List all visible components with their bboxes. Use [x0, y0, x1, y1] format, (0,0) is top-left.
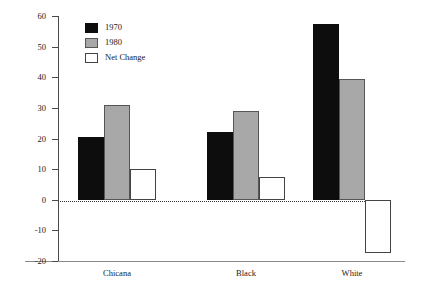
y-axis-tick [52, 108, 58, 109]
x-axis-category-label: White [301, 268, 403, 278]
legend-label-1980: 1980 [105, 38, 122, 47]
legend-item: Net Change [85, 50, 145, 65]
y-axis-tick [52, 230, 58, 231]
y-axis-tick-label: -10 [0, 226, 46, 235]
x-axis-category-label: Chicana [66, 268, 168, 278]
bar-chart: Percentage 6050403020100-10-20 ChicanaBl… [0, 0, 431, 293]
bar-1980 [233, 111, 259, 200]
y-axis-tick [52, 261, 58, 262]
y-axis-tick [52, 16, 58, 17]
y-axis-tick-label: 0 [0, 196, 46, 205]
legend-swatch-1980-icon [85, 38, 98, 48]
y-axis-line [58, 16, 59, 261]
zero-reference-line [58, 201, 373, 202]
bar-net-change [130, 169, 156, 200]
legend-label-net-change: Net Change [105, 53, 145, 62]
y-axis-tick-label: 60 [0, 12, 46, 21]
bar-1980 [339, 79, 365, 200]
legend-label-1970: 1970 [105, 23, 122, 32]
legend-item: 1980 [85, 35, 145, 50]
x-axis-line [25, 261, 405, 262]
legend-swatch-1970-icon [85, 23, 98, 33]
y-axis-tick-label: 10 [0, 165, 46, 174]
y-axis-tick-label: -20 [0, 257, 46, 266]
bar-1970 [207, 132, 233, 199]
y-axis-tick-label: 20 [0, 135, 46, 144]
bar-1970 [313, 24, 339, 200]
legend: 1970 1980 Net Change [85, 20, 145, 65]
bar-net-change [259, 177, 285, 199]
bar-1970 [78, 137, 104, 200]
y-axis-tick-label: 50 [0, 43, 46, 52]
y-axis-tick [52, 139, 58, 140]
legend-item: 1970 [85, 20, 145, 35]
y-axis-tick [52, 47, 58, 48]
legend-swatch-net-change-icon [85, 53, 98, 63]
bar-net-change [365, 200, 391, 254]
x-axis-category-label: Black [195, 268, 297, 278]
y-axis-tick [52, 169, 58, 170]
bar-1980 [104, 105, 130, 200]
y-axis-tick-label: 30 [0, 104, 46, 113]
y-axis-tick-label: 40 [0, 73, 46, 82]
y-axis-tick [52, 77, 58, 78]
